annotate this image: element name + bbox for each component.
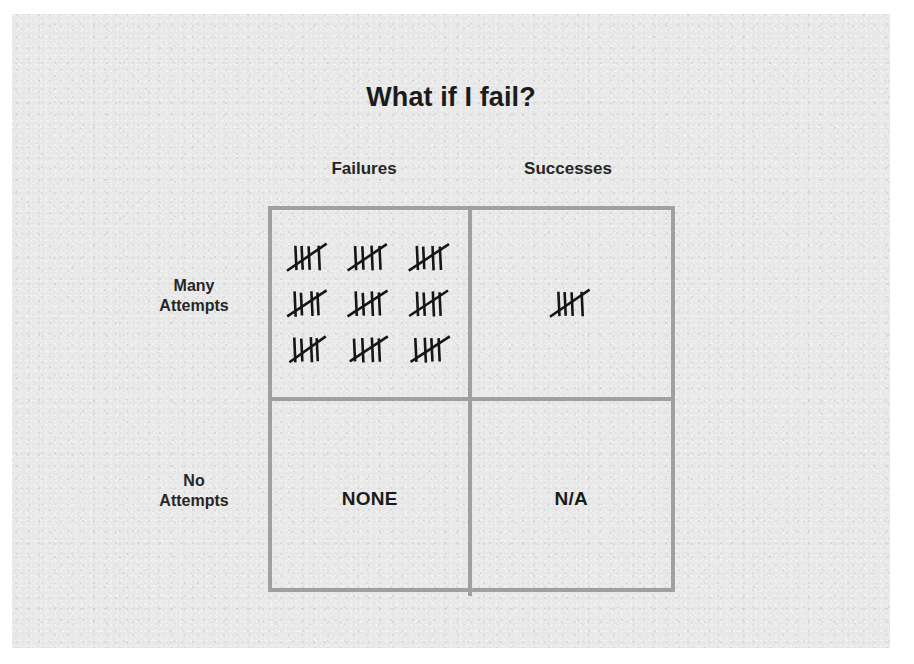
slide-canvas: What if I fail? Failures Successes Many … [12,14,890,648]
tally-mark-group-container [285,241,454,367]
row-label-no-line2: Attempts [132,491,256,511]
cell-value-none: NONE [342,488,398,510]
tally-mark-group [346,287,393,321]
tally-mark-group [285,241,332,275]
tally-mark-group [407,241,454,275]
tally-mark-group [346,333,393,367]
cell-many-attempts-successes [472,210,672,401]
column-header-successes: Successes [460,159,676,179]
tally-mark-group-container [548,287,595,321]
page-title: What if I fail? [12,82,890,113]
row-label-many-line1: Many [132,276,256,296]
matrix-grid: NONE N/A [268,206,675,592]
cell-many-attempts-failures [272,210,472,401]
column-header-failures: Failures [256,159,472,179]
tally-mark-group [407,333,454,367]
cell-no-attempts-failures: NONE [272,401,472,596]
tally-mark-group [407,287,454,321]
row-label-no-line1: No [132,471,256,491]
tally-mark-group [548,287,595,321]
tally-mark-group [346,241,393,275]
row-label-many-attempts: Many Attempts [132,276,256,315]
tally-mark-group [285,287,332,321]
row-label-many-line2: Attempts [132,296,256,316]
cell-value-na: N/A [554,488,588,510]
row-label-no-attempts: No Attempts [132,471,256,510]
tally-mark-group [285,333,332,367]
cell-no-attempts-successes: N/A [472,401,672,596]
